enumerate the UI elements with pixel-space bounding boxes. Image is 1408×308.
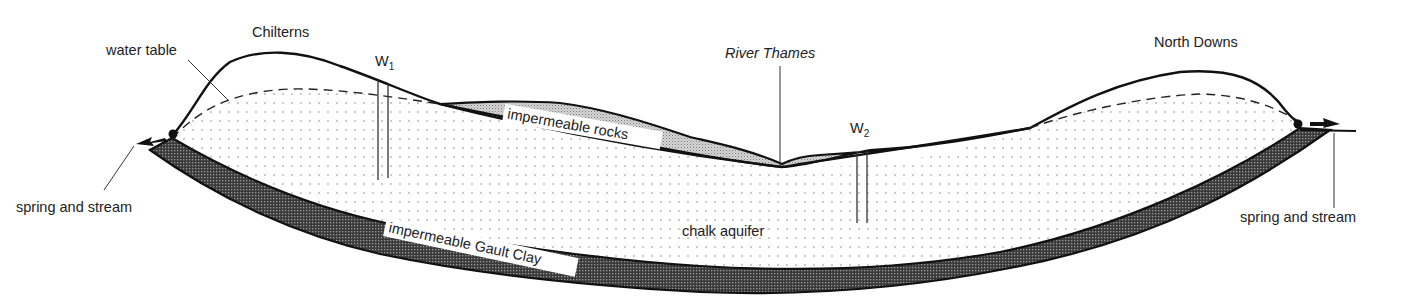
label-river-thames: River Thames: [725, 45, 815, 61]
label-well-2: W2: [850, 120, 870, 139]
label-chalk-aquifer: chalk aquifer: [682, 223, 764, 239]
water-table-leader: [188, 60, 228, 100]
aquifer-diagram: Chilterns North Downs water table River …: [0, 0, 1408, 308]
label-well-1: W1: [375, 53, 395, 72]
label-spring-right: spring and stream: [1240, 209, 1356, 225]
label-spring-left: spring and stream: [16, 199, 132, 215]
spring-left-dot: [169, 130, 178, 139]
label-north-downs: North Downs: [1154, 34, 1238, 50]
label-water-table: water table: [105, 42, 177, 58]
spring-right-dot: [1294, 120, 1303, 129]
label-chilterns: Chilterns: [252, 24, 309, 40]
ground-right-flat: [1300, 130, 1356, 131]
spring-left-leader: [104, 146, 134, 190]
